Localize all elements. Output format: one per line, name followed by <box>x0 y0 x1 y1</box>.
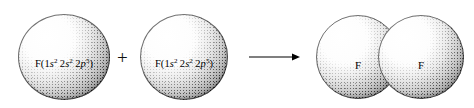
sphere-outline-2 <box>140 14 228 100</box>
reactant-atom-1: F(1s2 2s2 2p5) <box>18 14 110 100</box>
reactant-1-electrons-1: 2 <box>54 57 58 65</box>
reaction-arrow-icon <box>249 52 301 62</box>
reaction-diagram: F(1s2 2s2 2p5) + F(1s2 2s2 2p5) F F <box>0 0 474 108</box>
reactant-1-prefix: F( <box>35 58 45 69</box>
reactant-1-suffix: ) <box>89 58 93 69</box>
reactant-2-electrons-2: 2 <box>189 57 193 65</box>
product-atom-2-label: F <box>378 59 464 71</box>
reactant-atom-2-label: F(1s2 2s2 2p5) <box>140 58 228 69</box>
sphere-outline-4 <box>378 15 464 99</box>
plus-operator: + <box>117 48 128 67</box>
reactant-2-electrons-1: 2 <box>174 57 178 65</box>
sphere-outline-1 <box>18 14 110 100</box>
product-atom-2: F <box>378 15 464 99</box>
reactant-2-prefix: F( <box>155 58 165 69</box>
reactant-2-suffix: ) <box>209 58 213 69</box>
reactant-1-electrons-2: 2 <box>69 57 73 65</box>
reactant-atom-1-label: F(1s2 2s2 2p5) <box>18 58 110 69</box>
reactant-atom-2: F(1s2 2s2 2p5) <box>140 14 228 100</box>
